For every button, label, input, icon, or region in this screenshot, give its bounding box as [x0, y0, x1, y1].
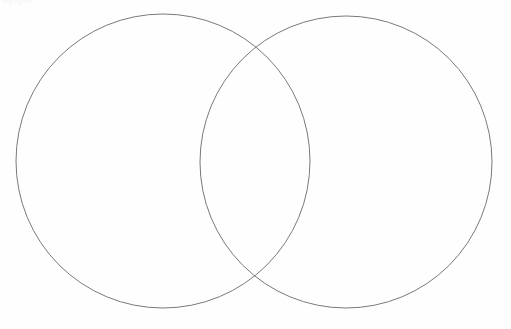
- venn-region-intersection[interactable]: [208, 60, 302, 265]
- venn-region-left-only[interactable]: [30, 60, 195, 265]
- footer-divider: [6, 322, 306, 323]
- venn-region-right-only[interactable]: [315, 60, 480, 265]
- figure-caption-text: ing figure: [3, 0, 32, 4]
- venn-diagram-page: ing figure: [0, 0, 511, 329]
